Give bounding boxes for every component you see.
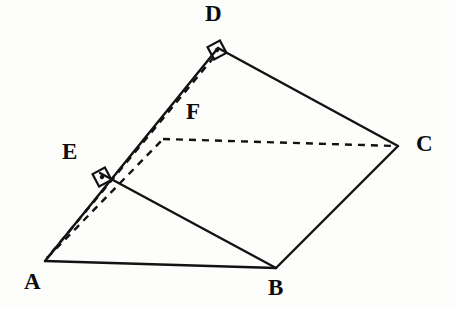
vertex-label-A: A: [24, 270, 41, 293]
edge-F-C-dashed: [163, 139, 396, 146]
vertex-label-D: D: [205, 2, 222, 25]
edge-C-B: [276, 146, 398, 268]
edge-D-C: [218, 48, 398, 146]
edge-E-B: [100, 173, 276, 268]
vertex-label-E: E: [62, 140, 77, 163]
vertex-label-F: F: [186, 100, 200, 123]
geometry-diagram: A B C D E F: [0, 0, 456, 309]
vertex-label-B: B: [268, 276, 283, 299]
edge-B-A: [45, 261, 276, 268]
vertex-label-C: C: [416, 132, 433, 155]
